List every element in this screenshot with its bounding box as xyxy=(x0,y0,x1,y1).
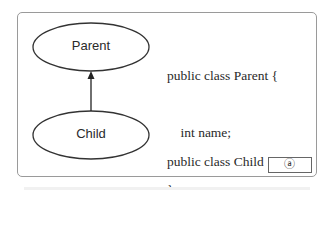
code-text: public class Child xyxy=(167,154,264,169)
answer-blank-box: ⓐ xyxy=(268,157,312,173)
code-line: public class Parent { xyxy=(167,66,278,85)
bottom-divider xyxy=(24,187,310,190)
code-line: public class Childⓐ xyxy=(167,152,312,173)
arrowhead-icon xyxy=(88,71,95,79)
parent-node-label: Parent xyxy=(33,38,149,53)
child-class-code: public class Childⓐ Parent { } xyxy=(167,114,312,190)
child-node-label: Child xyxy=(33,126,149,141)
